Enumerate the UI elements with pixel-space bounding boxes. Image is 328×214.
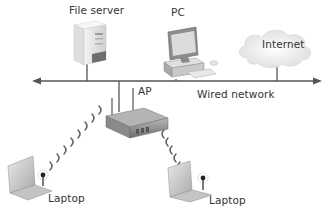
internet-label: Internet [262, 38, 305, 50]
server-tower-icon [74, 21, 106, 65]
laptop-left-label: Laptop [48, 192, 85, 204]
arrow-left-icon [32, 78, 41, 85]
wireless-access-point-icon [106, 88, 168, 138]
network-diagram: File server PC Internet Wired network AP… [0, 0, 328, 214]
ap-label: AP [138, 85, 152, 97]
file-server-label: File server [69, 4, 124, 16]
wired-network-backbone [32, 78, 322, 85]
arrow-right-icon [313, 78, 322, 85]
wired-network-label: Wired network [197, 88, 275, 100]
pc-label: PC [171, 6, 185, 18]
wireless-signal-right [162, 130, 180, 170]
desktop-computer-icon [164, 27, 218, 78]
wireless-signal-left [50, 106, 101, 170]
diagram-canvas [0, 0, 328, 214]
laptop-right-label: Laptop [209, 194, 246, 206]
laptop-icon [8, 156, 52, 200]
laptop-icon [168, 161, 212, 202]
